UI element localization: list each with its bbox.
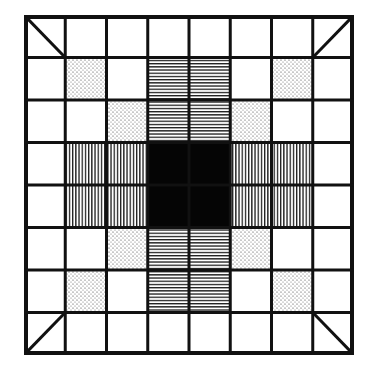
dotted-cell bbox=[230, 100, 271, 143]
dotted-cell bbox=[107, 100, 148, 143]
vertical-hatch-cell bbox=[107, 185, 148, 228]
horizontal-hatch-cell bbox=[148, 270, 189, 313]
horizontal-hatch-cell bbox=[189, 228, 230, 271]
dotted-cell bbox=[65, 270, 106, 313]
grid-drawing bbox=[24, 15, 354, 355]
vertical-hatch-cell bbox=[272, 185, 313, 228]
horizontal-hatch-cell bbox=[189, 100, 230, 143]
dotted-cell bbox=[230, 228, 271, 271]
dotted-cell bbox=[272, 270, 313, 313]
horizontal-hatch-cell bbox=[148, 58, 189, 101]
pattern-grid bbox=[24, 15, 354, 355]
dotted-cell bbox=[272, 58, 313, 101]
vertical-hatch-cell bbox=[230, 143, 271, 186]
vertical-hatch-cell bbox=[107, 143, 148, 186]
vertical-hatch-cell bbox=[272, 143, 313, 186]
horizontal-hatch-cell bbox=[189, 270, 230, 313]
horizontal-hatch-cell bbox=[189, 58, 230, 101]
horizontal-hatch-cell bbox=[148, 100, 189, 143]
vertical-hatch-cell bbox=[230, 185, 271, 228]
dotted-cell bbox=[65, 58, 106, 101]
horizontal-hatch-cell bbox=[148, 228, 189, 271]
vertical-hatch-cell bbox=[65, 185, 106, 228]
vertical-hatch-cell bbox=[65, 143, 106, 186]
dotted-cell bbox=[107, 228, 148, 271]
